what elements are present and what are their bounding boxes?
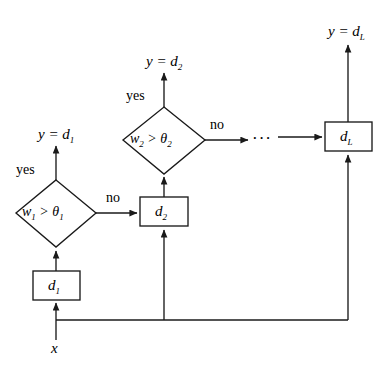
decision-2-condition: w2 > θ2: [130, 132, 172, 149]
output-label-y-equals-d2: y = d2: [146, 54, 182, 72]
flowchart-diagram: x y = d1 yes no w1 > θ1 d1 y = d2 yes no…: [0, 0, 389, 367]
box-label-d1: d1: [48, 278, 60, 296]
branch-label-yes-2: yes: [126, 89, 145, 103]
branch-label-no-1: no: [106, 191, 120, 205]
ellipsis-label: ···: [252, 130, 272, 147]
decision-1-condition: w1 > θ1: [22, 205, 64, 222]
box-label-dL: dL: [340, 129, 353, 147]
output-label-y-equals-d1: y = d1: [38, 127, 74, 145]
input-label-x: x: [51, 341, 58, 356]
branch-label-yes-1: yes: [16, 163, 35, 177]
branch-label-no-2: no: [210, 118, 224, 132]
flowchart-canvas: [0, 0, 389, 367]
output-label-y-equals-dL: y = dL: [328, 24, 365, 42]
output-label-y-equals-d1-sub: 1: [70, 135, 75, 145]
box-label-d2: d2: [155, 204, 167, 222]
